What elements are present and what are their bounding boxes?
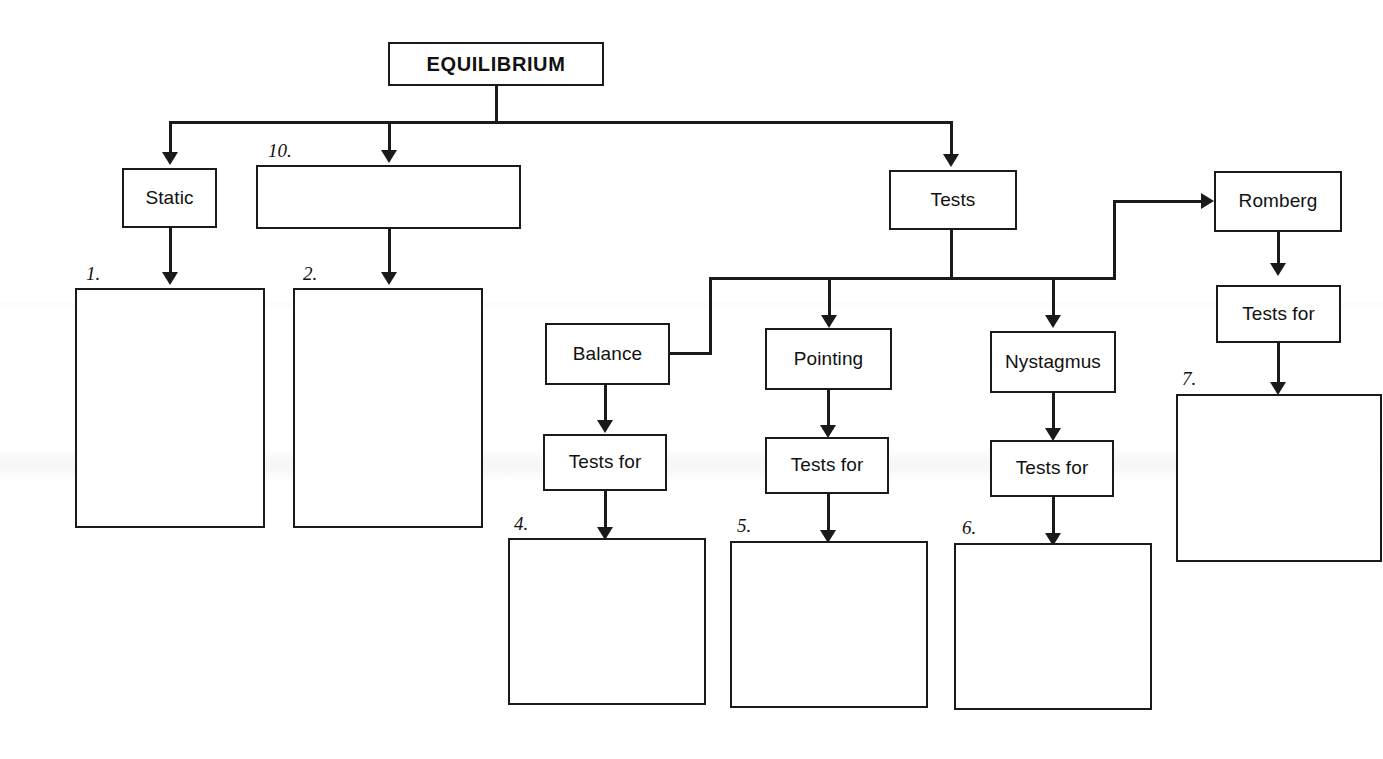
connector-equilibrium-stem: [495, 86, 498, 124]
number-label-5: 5.: [737, 515, 751, 537]
node-tests-for-romberg-label: Tests for: [1242, 304, 1315, 325]
number-label-4: 4.: [514, 513, 528, 535]
node-static: Static: [122, 168, 217, 228]
connector-tests-to-balance-vertical: [709, 277, 712, 355]
node-blank-6[interactable]: [954, 543, 1152, 710]
connector-testsfor-to-blank4: [604, 491, 607, 529]
node-blank-10[interactable]: [256, 165, 521, 229]
flow-chart-page: EQUILIBRIUM 10. Static Tests Romberg: [0, 0, 1383, 759]
connector-bus-to-tests: [950, 121, 953, 155]
node-blank-5[interactable]: [730, 541, 928, 708]
node-equilibrium: EQUILIBRIUM: [388, 42, 604, 86]
connector-tests-stem: [950, 230, 953, 280]
connector-blank10-to-blank2: [388, 229, 391, 273]
node-blank-1[interactable]: [75, 288, 265, 528]
number-label-6: 6.: [962, 517, 976, 539]
node-tests-for-balance-label: Tests for: [569, 452, 642, 473]
node-balance-label: Balance: [573, 344, 642, 365]
connector-nystagmus-to-testsfor: [1052, 393, 1055, 429]
node-blank-7[interactable]: [1176, 394, 1382, 562]
node-pointing-label: Pointing: [794, 349, 863, 370]
connector-tests-to-balance-horizontal: [668, 352, 712, 355]
connector-balance-to-testsfor: [604, 385, 607, 421]
connector-testsfor-to-blank6: [1052, 497, 1055, 535]
node-tests-for-balance: Tests for: [543, 434, 667, 491]
node-tests-for-nystagmus-label: Tests for: [1016, 458, 1089, 479]
connector-pointing-to-testsfor: [827, 390, 830, 426]
arrowhead-to-pointing: [821, 315, 837, 328]
connector-bus-to-blank10: [388, 121, 391, 151]
node-balance: Balance: [545, 323, 670, 385]
arrowhead-balance-to-testsfor: [597, 420, 613, 433]
node-romberg-label: Romberg: [1239, 191, 1318, 212]
node-blank-4[interactable]: [508, 538, 706, 705]
node-equilibrium-label: EQUILIBRIUM: [427, 53, 566, 75]
connector-tests-to-romberg-vertical: [1113, 200, 1116, 279]
connector-romberg-to-testsfor: [1277, 232, 1280, 264]
connector-main-bus: [169, 121, 953, 124]
number-label-2: 2.: [303, 263, 317, 285]
node-tests-for-nystagmus: Tests for: [990, 440, 1114, 497]
connector-static-to-blank1: [169, 228, 172, 273]
connector-testsfor-to-blank7: [1277, 343, 1280, 385]
connector-tests-to-romberg-horizontal: [1113, 200, 1203, 203]
node-nystagmus: Nystagmus: [990, 331, 1116, 393]
number-label-7: 7.: [1182, 368, 1196, 390]
node-nystagmus-label: Nystagmus: [1005, 352, 1101, 373]
node-romberg: Romberg: [1214, 171, 1342, 232]
arrowhead-to-tests: [943, 154, 959, 167]
arrowhead-to-static: [162, 152, 178, 165]
arrowhead-to-blank1: [162, 272, 178, 285]
connector-bus-to-static: [169, 121, 172, 153]
node-static-label: Static: [145, 188, 193, 209]
node-tests-label: Tests: [931, 190, 976, 211]
node-tests: Tests: [889, 170, 1017, 230]
number-label-1: 1.: [86, 263, 100, 285]
node-pointing: Pointing: [765, 328, 892, 390]
connector-tests-to-nystagmus: [1052, 277, 1055, 316]
connector-testsfor-to-blank5: [827, 494, 830, 532]
arrowhead-romberg-to-testsfor: [1270, 263, 1286, 276]
arrowhead-to-blank10: [381, 150, 397, 163]
node-tests-for-pointing-label: Tests for: [791, 455, 864, 476]
arrowhead-to-blank2: [381, 272, 397, 285]
node-tests-for-pointing: Tests for: [765, 437, 889, 494]
connector-tests-to-pointing: [828, 277, 831, 316]
node-blank-2[interactable]: [293, 288, 483, 528]
arrowhead-to-nystagmus: [1045, 315, 1061, 328]
arrowhead-to-romberg: [1201, 193, 1214, 209]
number-label-10: 10.: [268, 140, 292, 162]
node-tests-for-romberg: Tests for: [1216, 285, 1341, 343]
